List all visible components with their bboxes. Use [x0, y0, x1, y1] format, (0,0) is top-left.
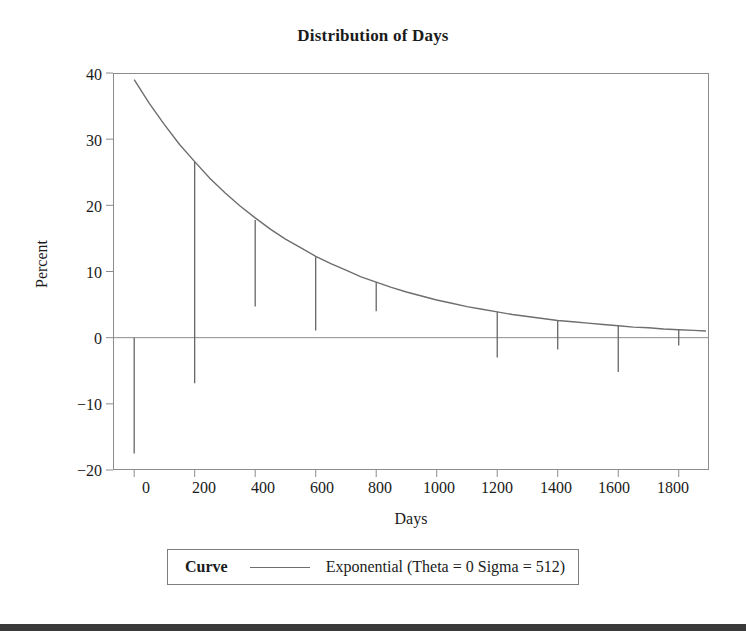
legend-entry-label: Exponential (Theta = 0 Sigma = 512)	[326, 558, 565, 576]
chart-figure: Distribution of Days 40 30 20 10 0 −10 −…	[0, 0, 746, 638]
legend-line-swatch	[250, 567, 310, 568]
x-axis-tick-labels: 0 200 400 600 800 1000 1200 1400 1600 18…	[0, 0, 746, 638]
y-axis-title: Percent	[33, 216, 51, 312]
chart-legend: Curve Exponential (Theta = 0 Sigma = 512…	[167, 549, 579, 585]
legend-title: Curve	[185, 558, 228, 576]
x-axis-title: Days	[113, 510, 709, 528]
footer-rule	[0, 624, 746, 631]
x-tick-label: 1800	[638, 480, 708, 496]
